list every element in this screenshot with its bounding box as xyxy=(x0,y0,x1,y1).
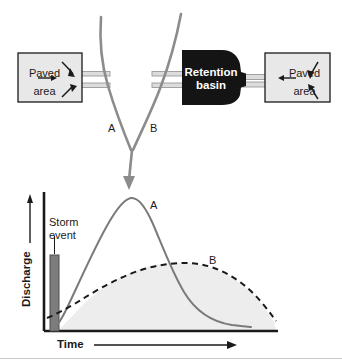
pipe-basin-outlet xyxy=(152,72,184,88)
right-paved-area-label-line1: Paved xyxy=(282,67,327,80)
figure-svg xyxy=(0,0,342,362)
left-paved-area-label-line1: Paved xyxy=(22,67,67,80)
series-a-annotation: A xyxy=(150,199,157,211)
stormwater-hydrograph-figure: Paved area Paved area Retention basin A … xyxy=(0,0,342,362)
discharge-arrow-head xyxy=(27,194,33,203)
right-paved-area-label-line2: area xyxy=(282,85,327,98)
stream-branch-a-label: A xyxy=(108,122,115,134)
time-arrow-head xyxy=(227,341,237,349)
storm-event-annotation: Storm event xyxy=(49,216,101,241)
retention-basin-label-line2: basin xyxy=(182,79,240,92)
y-axis-label: Discharge xyxy=(20,251,32,307)
storm-event-bar xyxy=(50,255,59,331)
chart-area-fill-series-b xyxy=(58,263,276,330)
left-paved-area-label-line2: area xyxy=(22,85,67,98)
figure-bottom-rule xyxy=(0,358,342,359)
series-b-annotation: B xyxy=(209,254,216,266)
x-axis-label: Time xyxy=(57,338,84,350)
stream-branch-b-label: B xyxy=(150,122,157,134)
stream-flow-arrowhead xyxy=(123,176,135,190)
stream-trunk xyxy=(129,150,132,180)
retention-basin-label-line1: Retention xyxy=(182,66,240,79)
